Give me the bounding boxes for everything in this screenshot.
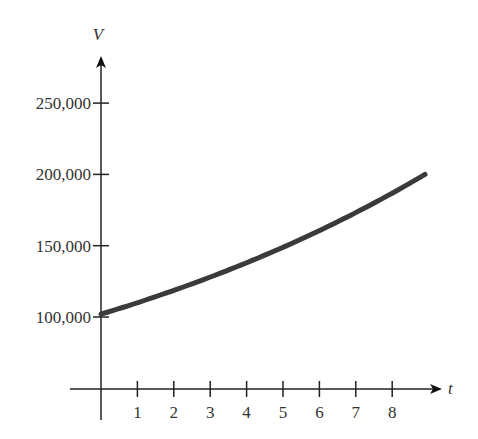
chart: V t 100,000150,000200,000250,000 1234567…: [0, 0, 478, 439]
y-axis-label: V: [93, 25, 106, 44]
y-tick-label: 100,000: [36, 308, 91, 327]
x-tick-label: 8: [388, 403, 397, 422]
x-tick-label: 5: [279, 403, 288, 422]
x-ticks: 12345678: [133, 381, 396, 422]
x-tick-label: 6: [315, 403, 324, 422]
y-ticks: 100,000150,000200,000250,000: [36, 94, 109, 327]
x-axis-label: t: [448, 379, 454, 398]
x-tick-label: 2: [170, 403, 179, 422]
y-tick-label: 250,000: [36, 94, 91, 113]
x-tick-label: 3: [206, 403, 215, 422]
y-tick-label: 150,000: [36, 237, 91, 256]
value-curve: [101, 174, 425, 314]
y-tick-label: 200,000: [36, 165, 91, 184]
x-tick-label: 4: [242, 403, 251, 422]
x-tick-label: 7: [352, 403, 361, 422]
x-tick-label: 1: [133, 403, 142, 422]
